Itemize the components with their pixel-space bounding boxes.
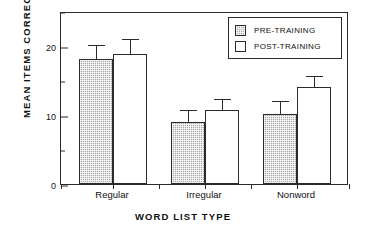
x-tick-mark [251,184,252,189]
error-bar [280,102,281,114]
error-bar [314,77,315,87]
bar-post-training[interactable] [205,110,239,184]
error-bar [96,46,97,59]
x-category-label: Nonword [277,189,315,200]
error-bar [188,111,189,122]
bar-pre-training[interactable] [171,122,205,184]
bar-slot[interactable] [79,11,113,184]
x-tick-mark [159,184,160,189]
legend-item-post-training: POST-TRAINING [235,38,336,54]
chart-legend: PRE-TRAINING POST-TRAINING [228,17,342,59]
y-tick-label: 10 [46,112,56,122]
pre-training-swatch-icon [235,25,246,36]
x-tick-mark [349,184,350,189]
legend-item-label: PRE-TRAINING [254,26,316,35]
error-bar-cap [272,101,289,102]
y-tick-mark [61,186,68,187]
bar-pre-training[interactable] [263,114,297,184]
bar-group [75,11,151,184]
legend-item-pre-training: PRE-TRAINING [235,22,336,38]
bar-chart: MEAN ITEMS CORRECT 01020 RegularIrregula… [0,0,366,235]
error-bar-cap [122,39,139,40]
x-tick-mark [61,184,62,189]
bar-slot[interactable] [171,11,205,184]
error-bar [130,40,131,54]
y-tick-label: 0 [51,181,56,191]
bar-post-training[interactable] [297,87,331,184]
x-category-label: Irregular [186,189,221,200]
x-axis-title: WORD LIST TYPE [0,211,366,222]
post-training-swatch-icon [235,41,246,52]
bar-pre-training[interactable] [79,59,113,184]
error-bar-cap [306,76,323,77]
x-category-label: Regular [95,189,128,200]
error-bar [222,100,223,110]
bar-slot[interactable] [113,11,147,184]
error-bar-cap [214,99,231,100]
y-tick-label: 20 [46,43,56,53]
bar-post-training[interactable] [113,54,147,184]
error-bar-cap [180,110,197,111]
y-axis-title: MEAN ITEMS CORRECT [21,0,32,134]
legend-item-label: POST-TRAINING [254,42,321,51]
error-bar-cap [88,45,105,46]
